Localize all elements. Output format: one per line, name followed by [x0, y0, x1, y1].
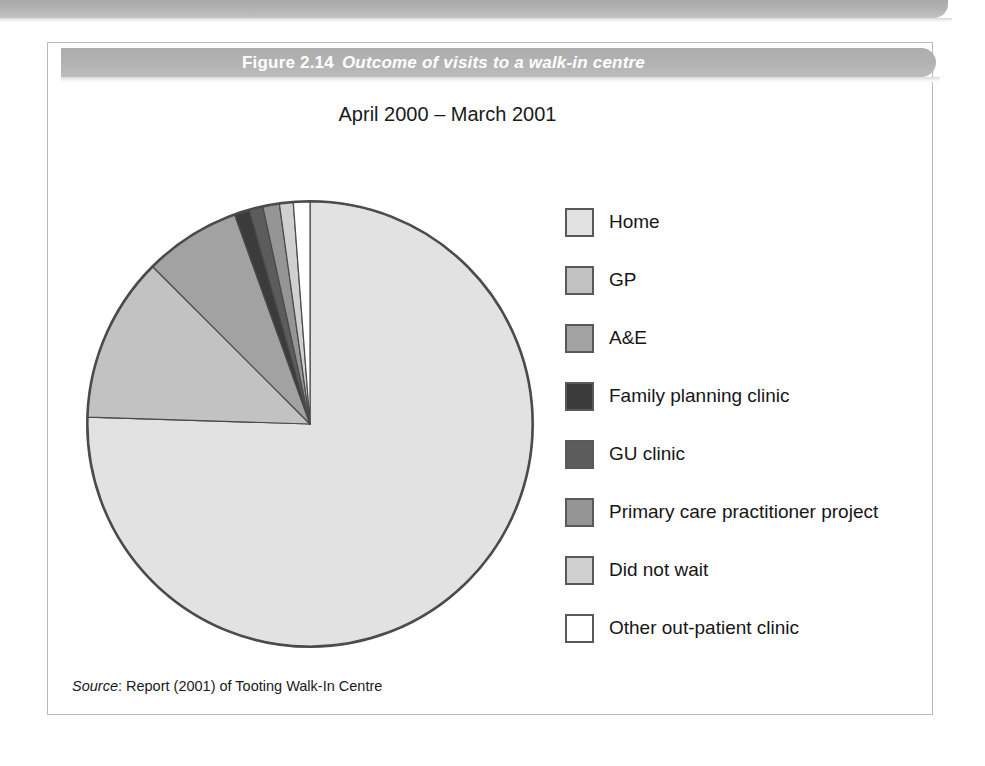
page-top-scan-artifact-shadow: [0, 18, 952, 22]
legend-swatch-icon: [565, 614, 594, 643]
source-note: Source: Report (2001) of Tooting Walk-In…: [72, 678, 382, 694]
source-value: : Report (2001) of Tooting Walk-In Centr…: [118, 678, 382, 694]
figure-number: Figure 2.14: [242, 53, 334, 72]
page-top-scan-artifact: [0, 0, 948, 18]
figure-caption: Outcome of visits to a walk-in centre: [342, 53, 645, 72]
legend-swatch-icon: [565, 208, 594, 237]
pie-chart-svg: [86, 200, 534, 648]
figure-title: Figure 2.14Outcome of visits to a walk-i…: [242, 53, 645, 73]
legend-swatch-icon: [565, 266, 594, 295]
legend-item: A&E: [565, 309, 955, 367]
legend-item: GU clinic: [565, 425, 955, 483]
legend-swatch-icon: [565, 440, 594, 469]
legend-item: Home: [565, 193, 955, 251]
legend-label: Did not wait: [609, 559, 708, 581]
legend-label: GU clinic: [609, 443, 685, 465]
legend-label: Primary care practitioner project: [609, 501, 878, 523]
legend-item: Primary care practitioner project: [565, 483, 955, 541]
legend-item: Did not wait: [565, 541, 955, 599]
legend-label: Home: [609, 211, 660, 233]
figure-title-banner: Figure 2.14Outcome of visits to a walk-i…: [61, 48, 936, 77]
source-label: Source: [72, 678, 118, 694]
legend-swatch-icon: [565, 498, 594, 527]
pie-slices: [88, 202, 532, 646]
legend-swatch-icon: [565, 556, 594, 585]
legend-item: Family planning clinic: [565, 367, 955, 425]
legend-swatch-icon: [565, 324, 594, 353]
legend-label: Other out-patient clinic: [609, 617, 799, 639]
legend-item: Other out-patient clinic: [565, 599, 955, 657]
figure-title-banner-shadow: [61, 77, 940, 82]
legend-label: A&E: [609, 327, 647, 349]
legend-label: Family planning clinic: [609, 385, 790, 407]
chart-subtitle: April 2000 – March 2001: [0, 103, 985, 126]
legend-label: GP: [609, 269, 636, 291]
chart-legend: HomeGPA&EFamily planning clinicGU clinic…: [565, 193, 955, 657]
legend-swatch-icon: [565, 382, 594, 411]
pie-chart: [86, 200, 534, 648]
legend-item: GP: [565, 251, 955, 309]
